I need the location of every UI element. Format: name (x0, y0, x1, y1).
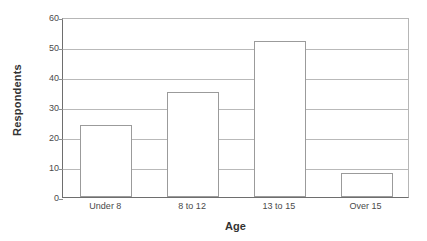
y-axis-title-label: Respondents (11, 64, 23, 136)
bars-layer (63, 19, 408, 197)
bar (167, 92, 219, 197)
bar (80, 125, 132, 197)
x-axis-tick-labels: Under 88 to 1213 to 15Over 15 (62, 200, 409, 216)
y-tick-label: 10 (34, 164, 59, 173)
x-tick-label: 8 to 12 (149, 200, 236, 212)
y-tick-label: 40 (34, 74, 59, 83)
y-tick-label: 50 (34, 44, 59, 53)
y-tick-label: 60 (34, 14, 59, 23)
y-tick-label: 20 (34, 134, 59, 143)
bar (254, 41, 306, 197)
x-tick-label: Under 8 (62, 200, 149, 212)
y-tick-label: 30 (34, 104, 59, 113)
x-tick-label: Over 15 (322, 200, 409, 212)
bar (341, 173, 393, 197)
y-axis-tick-labels: 0102030405060 (34, 18, 59, 198)
x-axis-title: Age (62, 220, 409, 232)
y-axis-title: Respondents (0, 0, 34, 200)
bar-chart-figure: Respondents 0102030405060 Under 88 to 12… (0, 0, 427, 241)
plot-area (62, 18, 409, 198)
y-tick-label: 0 (34, 194, 59, 203)
x-tick-label: 13 to 15 (236, 200, 323, 212)
